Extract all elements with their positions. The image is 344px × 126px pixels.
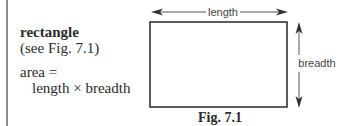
breadth-label: breadth: [298, 57, 335, 69]
length-label: length: [208, 6, 238, 18]
rectangle-figure: length breadth: [0, 0, 344, 126]
figure-caption: Fig. 7.1: [185, 110, 255, 126]
rectangle-shape: [150, 22, 287, 107]
